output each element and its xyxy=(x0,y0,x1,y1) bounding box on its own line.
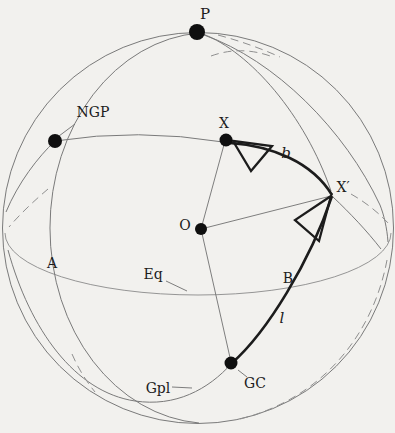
pole-label: P xyxy=(200,5,210,23)
star-x-dot xyxy=(220,134,233,147)
origin-dot xyxy=(195,223,207,235)
star-projection-label: X′ xyxy=(336,179,349,195)
node-a-label: A xyxy=(46,255,58,271)
galactic-coordinates-diagram: P NGP X X′ b O A Eq B l GC Gpl xyxy=(0,0,395,433)
star-label: X xyxy=(219,115,229,131)
ngp-label: NGP xyxy=(77,104,110,120)
longitude-l-label: l xyxy=(280,309,285,327)
latitude-b-label: b xyxy=(281,144,291,162)
pole-dot xyxy=(189,24,205,40)
paper-background xyxy=(0,0,395,433)
gc-dot xyxy=(225,357,238,370)
sphere-figure: P NGP X X′ b O A Eq B l GC Gpl xyxy=(0,0,395,433)
equator-label: Eq xyxy=(143,266,162,282)
ngp-dot xyxy=(48,134,62,148)
gc-label: GC xyxy=(244,375,266,391)
node-b-label: B xyxy=(283,270,293,286)
gpl-label: Gpl xyxy=(146,380,171,396)
origin-label: O xyxy=(179,217,190,233)
